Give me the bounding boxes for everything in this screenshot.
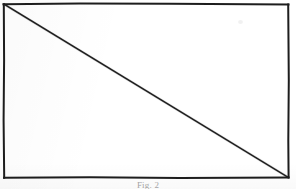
- diagonal-line-halo: [5, 5, 289, 178]
- rectangle-edge-right: [288, 4, 289, 177]
- diagonal-line: [5, 5, 289, 178]
- rectangle-edge-bottom: [4, 177, 289, 178]
- figure-drawing: [0, 0, 296, 189]
- scanned-figure-page: Fig. 2: [0, 0, 296, 189]
- rectangle-edge-top: [4, 3, 289, 4]
- rectangle-edge-left: [4, 4, 5, 178]
- figure-caption: Fig. 2: [0, 180, 296, 189]
